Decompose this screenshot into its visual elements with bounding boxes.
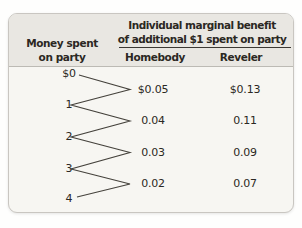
marginal-benefit-table-panel: Money spent on party Individual marginal…: [8, 13, 294, 213]
homebody-value-2: 0.03: [103, 146, 203, 159]
reveler-value-1: 0.11: [195, 114, 294, 127]
table-header-band: Money spent on party Individual marginal…: [9, 14, 293, 67]
money-label-1: 1: [39, 98, 99, 111]
money-label-4: 4: [39, 192, 99, 205]
column-header-homebody: Homebody: [105, 51, 205, 63]
row-header-line2: on party: [11, 51, 113, 65]
group-title: Individual marginal benefit of additiona…: [109, 18, 294, 46]
row-header-line1: Money spent: [11, 37, 113, 51]
reveler-value-3: 0.07: [195, 177, 294, 190]
homebody-value-3: 0.02: [103, 177, 203, 190]
money-label-0: $0: [39, 67, 99, 80]
group-title-line2: of additional $1 spent on party: [109, 32, 294, 46]
money-label-3: 3: [39, 162, 99, 175]
figure-stage: Money spent on party Individual marginal…: [0, 0, 302, 228]
group-title-line1: Individual marginal benefit: [109, 18, 294, 32]
row-header-money-spent: Money spent on party: [11, 37, 113, 64]
reveler-value-0: $0.13: [195, 83, 294, 96]
column-header-reveler: Reveler: [191, 51, 291, 63]
homebody-value-0: $0.05: [103, 83, 203, 96]
reveler-value-2: 0.09: [195, 146, 294, 159]
homebody-value-1: 0.04: [103, 114, 203, 127]
group-title-underline: [119, 47, 291, 48]
money-label-2: 2: [39, 130, 99, 143]
